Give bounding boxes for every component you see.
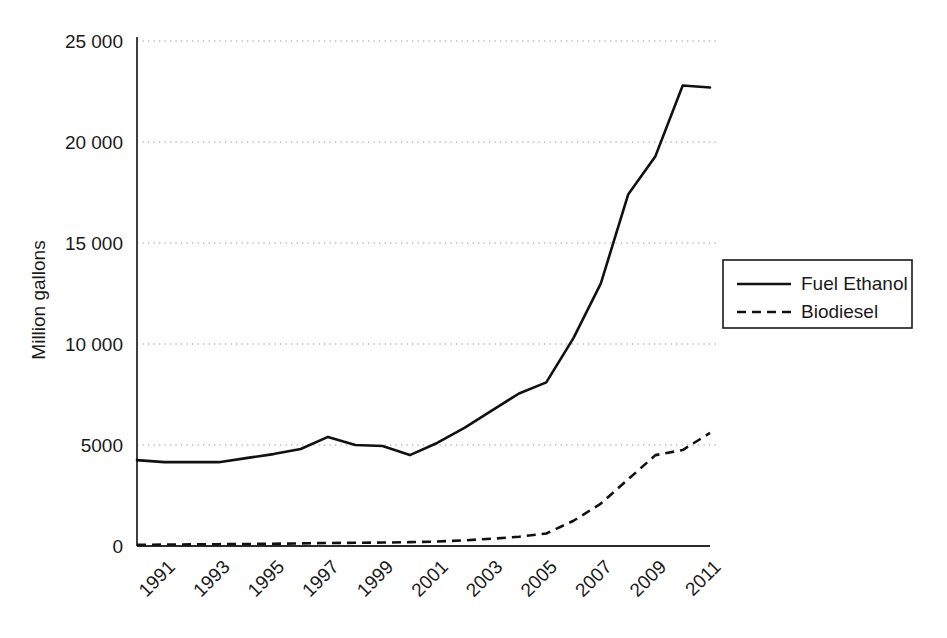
x-tick-label: 2005: [516, 556, 561, 601]
y-axis-title: Million gallons: [28, 240, 49, 359]
x-tick-label: 2009: [626, 556, 671, 601]
x-tick-label: 2003: [462, 556, 507, 601]
x-tick-label: 2011: [681, 556, 725, 600]
y-tick-label: 5000: [81, 435, 123, 456]
y-tick-label: 25 000: [65, 31, 123, 52]
x-tick-label: 1999: [353, 556, 398, 601]
x-tick-label: 1997: [298, 556, 343, 601]
x-axis-tick-labels: 1991199319951997199920012003200520072009…: [134, 556, 724, 601]
x-tick-label: 2001: [407, 556, 452, 601]
y-tick-label: 15 000: [65, 233, 123, 254]
y-tick-label: 20 000: [65, 132, 123, 153]
y-tick-label: 0: [112, 536, 123, 557]
cropped-caption-sliver: [0, 628, 947, 638]
chart-legend[interactable]: Fuel Ethanol Biodiesel: [723, 260, 912, 328]
line-chart: 0500010 00015 00020 00025 000 1991199319…: [0, 0, 947, 638]
y-axis-tick-labels: 0500010 00015 00020 00025 000: [65, 31, 123, 557]
gridlines-group: [137, 41, 718, 445]
x-tick-label: 2007: [571, 556, 616, 601]
figure-container: 0500010 00015 00020 00025 000 1991199319…: [0, 0, 947, 638]
x-tick-label: 1991: [134, 556, 179, 601]
legend-label-fuel-ethanol: Fuel Ethanol: [801, 273, 908, 294]
legend-label-biodiesel: Biodiesel: [801, 301, 878, 322]
x-tick-label: 1995: [244, 556, 289, 601]
y-tick-label: 10 000: [65, 334, 123, 355]
x-tick-label: 1993: [189, 556, 234, 601]
